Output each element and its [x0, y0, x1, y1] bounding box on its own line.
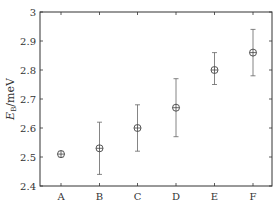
y-tick-label: 2.9: [20, 36, 36, 47]
plot-frame: [40, 12, 272, 186]
data-point-a: [58, 151, 65, 158]
y-axis-ticks: 2.42.52.62.72.82.93: [20, 7, 272, 192]
x-axis-ticks: ABCDEF: [56, 12, 256, 202]
data-point-b: [96, 122, 103, 174]
y-tick-label: 2.6: [20, 123, 36, 134]
y-tick-label: 3: [30, 7, 36, 18]
x-tick-label: B: [96, 191, 103, 202]
y-tick-label: 2.7: [20, 94, 36, 105]
plot-border: [40, 12, 272, 186]
x-tick-label: F: [250, 191, 257, 202]
x-tick-label: D: [172, 191, 180, 202]
errorbar-chart: 2.42.52.62.72.82.93 ABCDEF EB/meV: [0, 0, 278, 203]
data-series: [58, 29, 257, 174]
y-tick-label: 2.8: [20, 65, 36, 76]
data-point-e: [211, 53, 218, 85]
x-tick-label: C: [134, 191, 142, 202]
y-tick-label: 2.5: [20, 152, 36, 163]
x-tick-label: E: [211, 191, 218, 202]
y-tick-label: 2.4: [20, 181, 36, 192]
y-axis-label: EB/meV: [4, 77, 18, 121]
data-point-f: [250, 29, 257, 75]
data-point-c: [134, 105, 141, 151]
x-tick-label: A: [56, 191, 65, 202]
data-point-d: [173, 79, 180, 137]
